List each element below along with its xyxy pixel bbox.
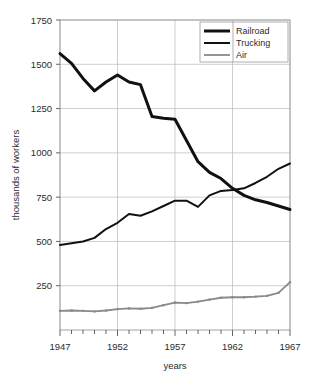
line-chart: 2505007501000125015001750 19471952195719… xyxy=(0,0,311,386)
series-marker-air xyxy=(220,297,222,299)
series-marker-air xyxy=(266,295,268,297)
series-marker-air xyxy=(70,309,72,311)
chart-canvas: 2505007501000125015001750 19471952195719… xyxy=(0,0,311,386)
series-marker-air xyxy=(151,307,153,309)
y-tick-label: 250 xyxy=(36,280,52,291)
series-marker-air xyxy=(93,310,95,312)
x-tick-label: 1962 xyxy=(222,341,243,352)
series-marker-air xyxy=(243,296,245,298)
series-marker-air xyxy=(277,292,279,294)
y-axis-title: thousands of workers xyxy=(10,130,21,221)
series-marker-air xyxy=(174,301,176,303)
series-marker-air xyxy=(185,302,187,304)
legend-label-trucking: Trucking xyxy=(236,38,270,48)
legend-label-air: Air xyxy=(236,50,247,60)
series-marker-air xyxy=(289,281,291,283)
y-tick-label: 1750 xyxy=(31,15,52,26)
series-marker-air xyxy=(208,298,210,300)
series-marker-air xyxy=(231,296,233,298)
series-marker-air xyxy=(59,310,61,312)
y-tick-label: 1500 xyxy=(31,59,52,70)
y-tick-label: 1250 xyxy=(31,103,52,114)
x-tick-label: 1952 xyxy=(107,341,128,352)
x-tick-label: 1957 xyxy=(164,341,185,352)
series-marker-air xyxy=(139,308,141,310)
series-marker-air xyxy=(162,304,164,306)
legend-label-railroad: Railroad xyxy=(236,26,270,36)
y-tick-label: 1000 xyxy=(31,147,52,158)
series-marker-air xyxy=(82,310,84,312)
series-marker-air xyxy=(197,301,199,303)
series-marker-air xyxy=(116,308,118,310)
y-tick-label: 750 xyxy=(36,192,52,203)
x-axis-title: years xyxy=(163,360,186,371)
x-tick-label: 1967 xyxy=(279,341,300,352)
y-tick-label: 500 xyxy=(36,236,52,247)
chart-legend: RailroadTruckingAir xyxy=(200,22,288,62)
series-marker-air xyxy=(128,307,130,309)
series-marker-air xyxy=(254,296,256,298)
x-tick-label: 1947 xyxy=(49,341,70,352)
series-marker-air xyxy=(105,309,107,311)
